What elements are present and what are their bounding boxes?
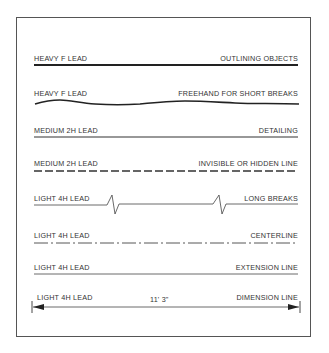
left-arrowhead-icon (33, 304, 44, 310)
row-1-use-label: OUTLINING OBJECTS (220, 55, 298, 62)
row-4-lead-label: MEDIUM 2H LEAD (34, 160, 98, 167)
row-7-use-label: EXTENSION LINE (236, 264, 298, 271)
row-5-lead-label: LIGHT 4H LEAD (34, 195, 90, 202)
dimension-value-label: 11' 3" (150, 296, 169, 303)
freehand-wavy-line (35, 100, 299, 105)
row-2-use-label: FREEHAND FOR SHORT BREAKS (178, 90, 298, 97)
row-4-use-label: INVISIBLE OR HIDDEN LINE (199, 160, 298, 167)
row-2-lead-label: HEAVY F LEAD (34, 90, 87, 97)
row-3-use-label: DETAILING (259, 127, 298, 134)
row-6-lead-label: LIGHT 4H LEAD (34, 232, 90, 239)
right-arrowhead-icon (288, 304, 299, 310)
row-3-lead-label: MEDIUM 2H LEAD (34, 127, 98, 134)
row-8-use-label: DIMENSION LINE (236, 294, 298, 301)
row-1-lead-label: HEAVY F LEAD (34, 55, 87, 62)
row-6-use-label: CENTERLINE (250, 232, 298, 239)
row-7-lead-label: LIGHT 4H LEAD (34, 264, 90, 271)
row-5-use-label: LONG BREAKS (244, 195, 298, 202)
row-8-lead-label: LIGHT 4H LEAD (37, 294, 93, 301)
